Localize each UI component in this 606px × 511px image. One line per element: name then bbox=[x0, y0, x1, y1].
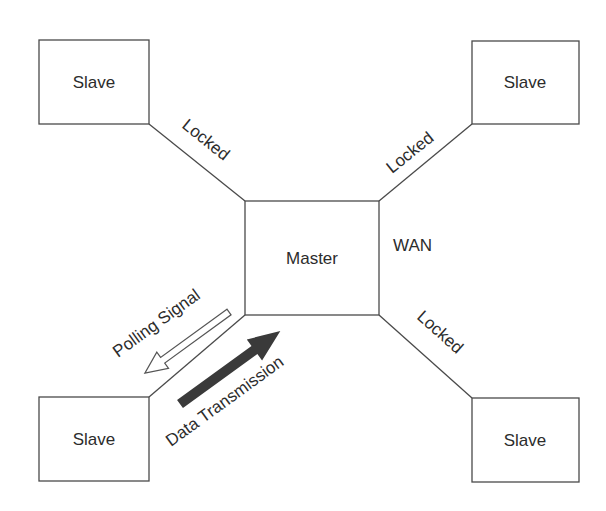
slave-label: Slave bbox=[73, 73, 116, 92]
slave-node-top-right: Slave bbox=[472, 41, 579, 124]
polling-network-diagram: Slave Slave Slave Slave Master WAN Locke… bbox=[0, 0, 606, 511]
slave-label: Slave bbox=[504, 431, 547, 450]
link-label-top-right: Locked bbox=[383, 128, 438, 177]
link-label-top-left: Locked bbox=[178, 115, 233, 164]
slave-node-bottom-right: Slave bbox=[472, 398, 579, 482]
slave-label: Slave bbox=[73, 430, 116, 449]
master-node: Master bbox=[245, 201, 379, 315]
link-label-bottom-right: Locked bbox=[413, 307, 467, 358]
polling-signal-label: Polling Signal bbox=[109, 285, 204, 361]
slave-node-bottom-left: Slave bbox=[39, 397, 149, 481]
slave-label: Slave bbox=[504, 73, 547, 92]
slave-node-top-left: Slave bbox=[39, 40, 149, 124]
master-label: Master bbox=[286, 249, 338, 268]
wan-label: WAN bbox=[393, 236, 432, 255]
